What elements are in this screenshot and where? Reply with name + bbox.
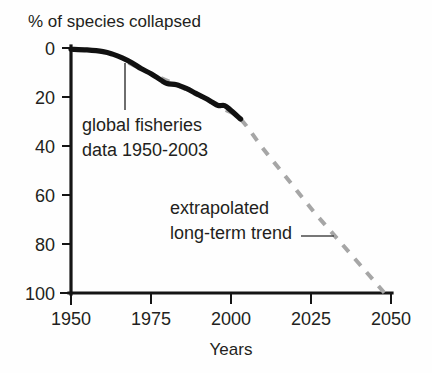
- x-axis-title: Years: [210, 340, 253, 359]
- data-annotation-line-1: global fisheries: [82, 115, 202, 135]
- y-tick-label-40: 40: [35, 137, 55, 157]
- x-tick-label-2025: 2025: [291, 309, 331, 329]
- y-tick-label-80: 80: [35, 235, 55, 255]
- chart-figure: % of species collapsed 0 20 40 60 80 100: [0, 0, 432, 373]
- y-tick-label-20: 20: [35, 88, 55, 108]
- y-tick-label-60: 60: [35, 186, 55, 206]
- x-tick-label-1950: 1950: [51, 309, 91, 329]
- trend-annotation-line-2: long-term trend: [170, 223, 292, 243]
- chart-canvas: % of species collapsed 0 20 40 60 80 100: [0, 0, 432, 373]
- data-annotation-line-2: data 1950-2003: [82, 140, 208, 160]
- trend-annotation-line-1: extrapolated: [170, 198, 269, 218]
- chart-title: % of species collapsed: [28, 12, 201, 31]
- x-tick-label-2050: 2050: [371, 309, 411, 329]
- y-tick-label-100: 100: [25, 284, 55, 304]
- y-tick-label-0: 0: [45, 39, 55, 59]
- x-tick-label-1975: 1975: [131, 309, 171, 329]
- x-tick-label-2000: 2000: [211, 309, 251, 329]
